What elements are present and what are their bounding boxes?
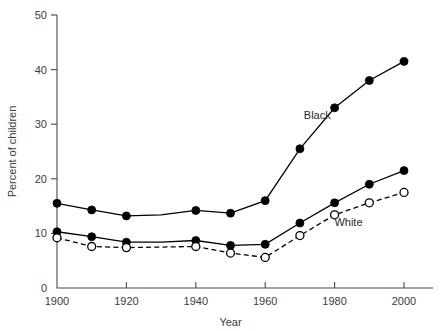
chart-container: 01020304050190019201940196019802000 Blac… [0,0,441,331]
y-tick-label: 0 [41,282,47,294]
data-point-black-lower [88,233,96,241]
data-point-white [261,253,269,261]
data-point-white [122,244,130,252]
data-point-white [227,249,235,257]
data-point-white [296,232,304,240]
x-tick-label: 1980 [322,295,346,307]
data-point-white [365,199,373,207]
annotation-white: White [334,216,362,228]
data-point-black [192,206,200,214]
x-tick-label: 1900 [45,295,69,307]
data-point-white [192,243,200,251]
series-annotations: BlackWhite [304,109,363,228]
annotation-black: Black [304,109,331,121]
series-line-black-lower [57,171,404,246]
y-tick-label: 50 [35,9,47,21]
x-tick-label: 1960 [253,295,277,307]
data-point-black-lower [365,180,373,188]
data-point-white [53,234,61,242]
data-point-black [261,197,269,205]
data-point-black-lower [261,240,269,248]
y-tick-label: 30 [35,118,47,130]
x-tick-label: 1940 [184,295,208,307]
data-point-black [53,199,61,207]
line-chart: 01020304050190019201940196019802000 Blac… [0,0,441,331]
y-tick-label: 10 [35,227,47,239]
x-tick-label: 1920 [114,295,138,307]
data-point-black [331,104,339,112]
data-point-black [88,206,96,214]
y-tick-label: 20 [35,173,47,185]
y-axis-title: Percent of children [6,106,18,198]
series-line-black [57,61,404,216]
data-point-black [296,145,304,153]
y-tick-label: 40 [35,64,47,76]
data-point-black [122,212,130,220]
data-point-white [400,188,408,196]
x-tick-label: 2000 [392,295,416,307]
data-point-white [88,243,96,251]
data-points [53,57,408,261]
data-point-black [400,57,408,65]
data-point-black-lower [296,219,304,227]
data-point-black-lower [331,199,339,207]
x-axis-title: Year [219,316,242,328]
data-series [57,61,404,257]
axis-tick-labels: 01020304050190019201940196019802000 [35,9,416,307]
data-point-black [365,77,373,85]
data-point-black-lower [227,241,235,249]
data-point-black [227,209,235,217]
data-point-black-lower [400,167,408,175]
